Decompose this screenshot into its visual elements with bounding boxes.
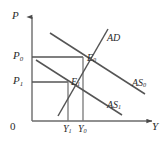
- origin-label: 0: [10, 121, 16, 132]
- ad-as-diagram: P Y 0 P0 P1 Y1 Y0 AD AS0 AS1 E0 E1: [0, 0, 167, 143]
- curve-label-as1-sub: 1: [118, 103, 121, 110]
- y-axis-label: Y: [152, 121, 158, 132]
- equilibrium-label-e1: E1: [71, 77, 80, 88]
- tick-y0-sub: 0: [84, 127, 87, 134]
- equilibrium-label-e0-sub: 0: [93, 56, 96, 63]
- curve-label-as1: AS1: [107, 100, 121, 111]
- curve-label-ad: AD: [107, 33, 120, 43]
- tick-y0: Y0: [78, 124, 87, 135]
- tick-p0-text: P: [13, 49, 20, 61]
- p-axis-label: P: [12, 10, 19, 21]
- equilibrium-label-e0: E0: [87, 53, 96, 64]
- curve-label-as0: AS0: [132, 78, 146, 89]
- tick-p1-text: P: [13, 74, 20, 86]
- tick-y1-sub: 1: [69, 127, 72, 134]
- tick-p0: P0: [13, 50, 23, 62]
- equilibrium-label-e1-sub: 1: [77, 80, 80, 87]
- curve-as0: [50, 33, 145, 94]
- curve-label-as0-sub: 0: [143, 81, 146, 88]
- tick-y1: Y1: [63, 124, 72, 135]
- curve-label-as1-text: AS: [107, 99, 118, 110]
- curve-label-as0-text: AS: [132, 77, 143, 88]
- diagram-canvas: [0, 0, 167, 143]
- tick-p1: P1: [13, 75, 23, 87]
- tick-p0-sub: 0: [20, 55, 23, 62]
- tick-p1-sub: 1: [20, 80, 23, 87]
- curve-label-ad-text: AD: [107, 32, 120, 43]
